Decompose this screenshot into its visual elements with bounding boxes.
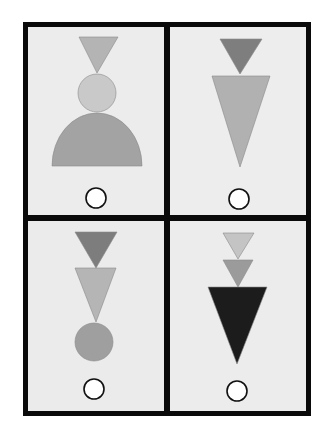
answer-bubble-bottom-left[interactable] xyxy=(84,379,104,399)
circle-shape xyxy=(75,323,113,361)
answer-bubble-bottom-right[interactable] xyxy=(227,381,247,401)
puzzle-canvas xyxy=(0,0,328,438)
answer-bubble-top-right[interactable] xyxy=(229,189,249,209)
answer-bubble-top-left[interactable] xyxy=(86,188,106,208)
puzzle-figure xyxy=(0,0,328,438)
circle-shape xyxy=(78,74,116,112)
divider-horizontal xyxy=(23,215,311,221)
